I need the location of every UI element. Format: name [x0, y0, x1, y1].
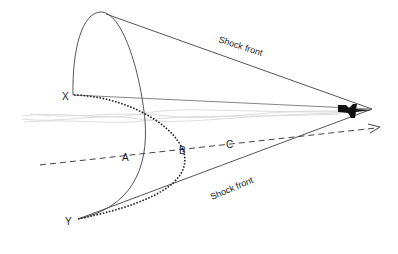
ground-intersection-dotted-curve — [74, 95, 185, 219]
point-a-label: A — [122, 152, 129, 163]
lower-shock-front-line — [78, 109, 372, 219]
point-b-label: B — [179, 145, 186, 156]
upper-shock-front-label: Shock front — [217, 34, 264, 58]
upper-shock-front-line — [106, 14, 372, 109]
shock-cone-diagram: X Y A B C Shock front Shock front — [0, 0, 398, 254]
point-c-label: C — [226, 139, 233, 150]
point-x-label: X — [62, 91, 69, 102]
ground-track-dashed-line — [40, 128, 376, 165]
point-y-label: Y — [65, 216, 72, 227]
x-to-apex-line — [73, 95, 372, 109]
contrail-lines — [22, 110, 340, 122]
lower-shock-front-label: Shock front — [209, 175, 255, 202]
